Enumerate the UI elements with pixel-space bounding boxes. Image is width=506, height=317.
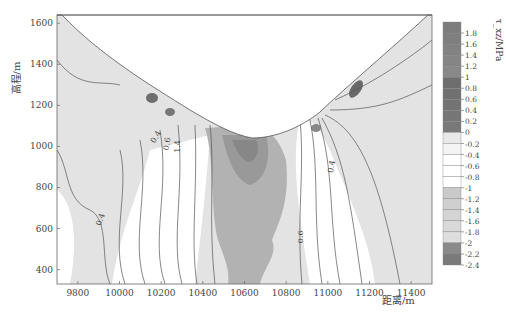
contour-label: 0.6 — [296, 230, 305, 243]
colorbar-tick-label: -2.4 — [465, 261, 480, 270]
colorbar-tick-label: -1.4 — [465, 206, 480, 215]
colorbar-band — [443, 177, 461, 188]
colorbar-band — [443, 166, 461, 177]
y-tick-label: 1000 — [30, 141, 53, 151]
x-tick-label: 10800 — [272, 288, 301, 298]
colorbar-label: τ_xz/MPa — [493, 19, 504, 62]
y-tick-label: 800 — [36, 182, 53, 192]
colorbar-band — [443, 121, 461, 132]
colorbar-band — [443, 77, 461, 88]
colorbar-tick-label: 1.8 — [465, 29, 477, 38]
contour-chart: 9800100001020010400106001080011000112001… — [0, 0, 506, 317]
colorbar-band — [443, 66, 461, 77]
x-tick-label: 10200 — [147, 288, 176, 298]
colorbar-tick-label: 0.4 — [465, 106, 477, 115]
colorbar-tick-label: -1.8 — [465, 228, 480, 237]
colorbar-tick-label: 1.6 — [465, 40, 477, 49]
colorbar-tick-label: -1 — [465, 184, 472, 193]
colorbar-band — [443, 33, 461, 44]
x-tick-label: 11200 — [355, 288, 384, 298]
colorbar-band — [443, 199, 461, 210]
colorbar-band — [443, 88, 461, 99]
colorbar-band — [443, 132, 461, 143]
colorbar-band — [443, 188, 461, 199]
concentration-right-slope-2 — [311, 124, 321, 132]
concentration-left-slope — [146, 93, 158, 103]
colorbar-tick-label: -2.2 — [465, 250, 480, 259]
colorbar-tick-label: 0.2 — [465, 117, 477, 126]
colorbar-band — [443, 254, 461, 265]
colorbar-band — [443, 144, 461, 155]
colorbar: 1.81.61.41.210.80.60.40.20-0.2-0.4-0.6-0… — [443, 22, 480, 270]
y-tick-label: 600 — [36, 224, 53, 234]
colorbar-band — [443, 55, 461, 66]
colorbar-tick-label: 1 — [465, 73, 470, 82]
colorbar-band — [443, 210, 461, 221]
concentration-left-slope-2 — [165, 108, 175, 116]
x-tick-label: 10400 — [189, 288, 218, 298]
y-tick-label: 1400 — [30, 59, 53, 69]
colorbar-tick-label: 1.4 — [465, 51, 477, 60]
x-tick-label: 11000 — [314, 288, 343, 298]
x-tick-label: 9800 — [66, 288, 89, 298]
x-tick-label: 10000 — [105, 288, 134, 298]
colorbar-tick-label: -0.8 — [465, 173, 480, 182]
contour-label: 1.4 — [173, 140, 182, 153]
colorbar-band — [443, 22, 461, 33]
colorbar-tick-label: 1.2 — [465, 62, 477, 71]
colorbar-tick-label: 0 — [465, 128, 470, 137]
colorbar-tick-label: -1.6 — [465, 217, 480, 226]
x-axis-label: 距离/m — [382, 294, 415, 306]
colorbar-band — [443, 155, 461, 166]
y-axis: 4006008001000120014001600 — [30, 18, 60, 274]
colorbar-band — [443, 232, 461, 243]
colorbar-band — [443, 243, 461, 254]
colorbar-tick-label: -2 — [465, 239, 473, 248]
colorbar-tick-label: -0.4 — [465, 151, 480, 160]
colorbar-tick-label: -1.2 — [465, 195, 480, 204]
colorbar-tick-label: -0.6 — [465, 162, 480, 171]
colorbar-tick-label: -0.2 — [465, 140, 480, 149]
y-tick-label: 400 — [36, 265, 53, 275]
colorbar-band — [443, 221, 461, 232]
colorbar-band — [443, 110, 461, 121]
colorbar-band — [443, 99, 461, 110]
y-axis-label: 高程/m — [10, 61, 22, 94]
y-tick-label: 1200 — [30, 100, 53, 110]
x-tick-label: 10600 — [230, 288, 259, 298]
colorbar-tick-label: 0.8 — [465, 84, 477, 93]
colorbar-band — [443, 44, 461, 55]
colorbar-tick-label: 0.6 — [465, 95, 477, 104]
y-tick-label: 1600 — [30, 18, 53, 28]
